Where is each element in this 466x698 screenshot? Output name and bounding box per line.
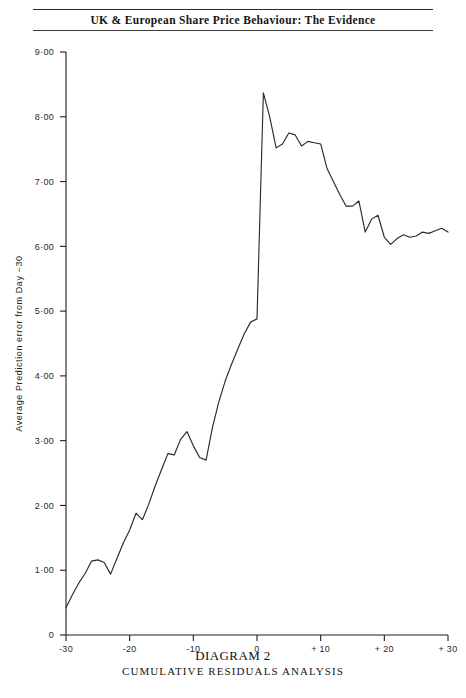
x-axis-ticks <box>66 635 448 641</box>
y-tick-label-0: 0 <box>49 630 54 640</box>
running-head: UK & European Share Price Behaviour: The… <box>33 9 433 33</box>
y-tick-label-1: 1·00 <box>35 565 54 575</box>
y-axis-ticks <box>60 52 66 635</box>
y-axis-tick-labels: 01·002·003·004·005·006·007·008·009·00 <box>35 47 54 640</box>
y-tick-label-5: 5·00 <box>35 306 54 316</box>
y-axis-title: Average Prediction error from Day −30 <box>14 255 24 431</box>
y-tick-label-2: 2·00 <box>35 501 54 511</box>
figure-number: DIAGRAM 2 <box>0 648 466 664</box>
y-tick-label-7: 7·00 <box>35 177 54 187</box>
figure-subtitle: CUMULATIVE RESIDUALS ANALYSIS <box>0 664 466 679</box>
residuals-series-line <box>66 93 448 608</box>
line-chart: 01·002·003·004·005·006·007·008·009·00 -3… <box>0 36 466 656</box>
page-title: UK & European Share Price Behaviour: The… <box>33 10 433 30</box>
figure-cumulative-residuals: 01·002·003·004·005·006·007·008·009·00 -3… <box>0 36 466 656</box>
figure-caption: DIAGRAM 2 CUMULATIVE RESIDUALS ANALYSIS <box>0 648 466 679</box>
y-tick-label-4: 4·00 <box>35 371 54 381</box>
y-tick-label-8: 8·00 <box>35 112 54 122</box>
y-tick-label-3: 3·00 <box>35 436 54 446</box>
header-rule-bottom <box>33 30 433 31</box>
y-tick-label-9: 9·00 <box>35 47 54 57</box>
y-tick-label-6: 6·00 <box>35 242 54 252</box>
